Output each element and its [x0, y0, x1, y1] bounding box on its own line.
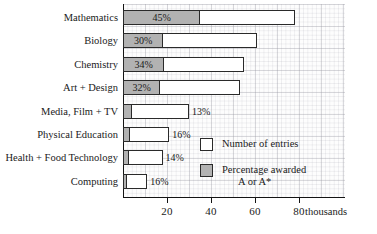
x-tick-20: [167, 197, 168, 203]
category-label-7: Computing: [0, 176, 118, 187]
bar-row: 45%: [123, 10, 295, 25]
x-tick-label-20: 20: [147, 205, 187, 217]
x-tick-40: [211, 197, 212, 203]
bar-data-label-3: 32%: [123, 81, 160, 94]
category-label-1: Biology: [0, 35, 118, 46]
x-axis-unit-label: thousands: [305, 206, 347, 217]
category-label-2: Chemistry: [0, 59, 118, 70]
bar-data-label-1: 30%: [123, 34, 163, 47]
bar-data-label-4: 13%: [192, 105, 210, 118]
category-label-5: Physical Education: [0, 129, 118, 140]
bar-entries-6: [123, 150, 163, 165]
category-label-3: Art + Design: [0, 82, 118, 93]
bar-row: 13%: [123, 104, 189, 119]
x-tick-80: [299, 197, 300, 203]
category-label-4: Media, Film + TV: [0, 106, 118, 117]
bar-data-label-5: 16%: [172, 128, 190, 141]
bar-data-label-0: 45%: [123, 11, 200, 24]
bar-percentage-6: [123, 150, 129, 165]
category-label-0: Mathematics: [0, 12, 118, 23]
legend-label-percentage-line2: A or A*: [238, 176, 271, 188]
legend-swatch-entries-icon: [200, 138, 213, 151]
bar-chart: 20406080 thousands MathematicsBiologyChe…: [0, 0, 377, 234]
x-axis-line: [123, 197, 345, 198]
bar-row: 30%: [123, 33, 257, 48]
bar-row: 34%: [123, 57, 244, 72]
bar-row: 16%: [123, 174, 147, 189]
bar-percentage-4: [123, 104, 132, 119]
bar-data-label-7: 16%: [150, 175, 168, 188]
bar-entries-4: [123, 104, 189, 119]
legend-label-entries: Number of entries: [222, 138, 298, 150]
legend-label-percentage-line1: Percentage awarded: [222, 164, 306, 176]
bar-row: 14%: [123, 150, 163, 165]
bar-row: 16%: [123, 127, 169, 142]
bar-percentage-7: [123, 174, 127, 189]
x-tick-label-60: 60: [235, 205, 275, 217]
bar-data-label-6: 14%: [166, 151, 184, 164]
x-tick-60: [255, 197, 256, 203]
bar-row: 32%: [123, 80, 240, 95]
x-tick-label-40: 40: [191, 205, 231, 217]
bar-data-label-2: 34%: [123, 58, 164, 71]
category-label-6: Health + Food Technology: [0, 152, 118, 163]
bar-percentage-5: [123, 127, 130, 142]
legend-swatch-percentage-icon: [200, 164, 213, 177]
